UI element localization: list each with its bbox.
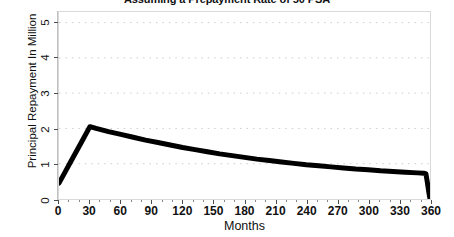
x-tick-mark-250 [317, 200, 318, 202]
x-tick-label-360: 360 [414, 204, 448, 218]
data-series-group [59, 127, 430, 199]
x-tick-mark-260 [327, 200, 328, 202]
x-axis-title: Months [58, 219, 431, 233]
x-tick-mark-290 [358, 200, 359, 202]
x-tick-mark-230 [296, 200, 297, 202]
chart-title: Assuming a Prepayment Rate of 50 PSA [0, 0, 454, 6]
x-tick-mark-190 [255, 200, 256, 202]
x-tick-mark-50 [110, 200, 111, 202]
x-tick-label-180: 180 [228, 204, 262, 218]
x-tick-mark-100 [162, 200, 163, 202]
x-tick-mark-350 [421, 200, 422, 202]
x-tick-mark-130 [193, 200, 194, 202]
x-tick-mark-220 [286, 200, 287, 202]
x-tick-mark-140 [203, 200, 204, 202]
y-tick-label-3: 3 [40, 87, 51, 101]
x-tick-label-270: 270 [321, 204, 355, 218]
x-tick-mark-340 [410, 200, 411, 202]
plot-svg [59, 12, 430, 199]
y-tick-label-5: 5 [40, 15, 51, 29]
x-tick-label-30: 30 [72, 204, 106, 218]
x-tick-label-0: 0 [41, 204, 75, 218]
x-tick-mark-320 [390, 200, 391, 202]
x-tick-label-60: 60 [103, 204, 137, 218]
x-tick-label-120: 120 [165, 204, 199, 218]
y-tick-label-4: 4 [40, 51, 51, 65]
x-tick-mark-170 [234, 200, 235, 202]
y-axis-title: Principal Repayment In Million [26, 0, 38, 186]
x-tick-label-90: 90 [134, 204, 168, 218]
x-tick-mark-10 [68, 200, 69, 202]
gridlines [59, 23, 430, 164]
x-tick-mark-70 [131, 200, 132, 202]
x-tick-mark-110 [172, 200, 173, 202]
x-tick-label-150: 150 [196, 204, 230, 218]
y-tick-label-2: 2 [40, 122, 51, 136]
x-tick-label-330: 330 [383, 204, 417, 218]
x-tick-mark-40 [99, 200, 100, 202]
plot-area [58, 11, 431, 200]
chart-container: Assuming a Prepayment Rate of 50 PSA Pri… [0, 0, 454, 237]
x-tick-mark-200 [265, 200, 266, 202]
x-tick-mark-20 [79, 200, 80, 202]
x-tick-label-240: 240 [290, 204, 324, 218]
y-tick-label-1: 1 [40, 158, 51, 172]
x-tick-label-300: 300 [352, 204, 386, 218]
x-tick-mark-160 [224, 200, 225, 202]
x-tick-mark-80 [141, 200, 142, 202]
data-line-0 [59, 127, 430, 199]
x-tick-mark-280 [348, 200, 349, 202]
x-tick-mark-310 [379, 200, 380, 202]
x-tick-label-210: 210 [259, 204, 293, 218]
